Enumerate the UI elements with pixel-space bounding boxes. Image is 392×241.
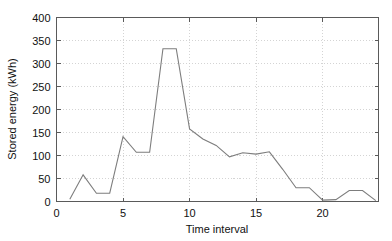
y-axis-title: Stored energy (kWh) bbox=[6, 58, 18, 159]
data-series bbox=[70, 49, 376, 201]
y-tick-label: 250 bbox=[32, 81, 50, 93]
y-tick-label: 150 bbox=[32, 127, 50, 139]
x-axis-title: Time interval bbox=[186, 223, 249, 235]
x-tick-label: 10 bbox=[183, 207, 195, 219]
y-tick-label: 400 bbox=[32, 12, 50, 24]
x-tick-label: 20 bbox=[316, 207, 328, 219]
grid-lines bbox=[57, 18, 379, 202]
series-stored-energy bbox=[70, 49, 376, 201]
stored-energy-line-chart: 050100150200250300350400 05101520 Stored… bbox=[0, 0, 392, 241]
y-tick-label: 100 bbox=[32, 150, 50, 162]
x-axis-tick-labels: 05101520 bbox=[53, 207, 328, 219]
y-tick-label: 50 bbox=[38, 173, 50, 185]
y-axis-tick-labels: 050100150200250300350400 bbox=[32, 12, 50, 208]
x-tick-label: 15 bbox=[250, 207, 262, 219]
x-tick-label: 5 bbox=[120, 207, 126, 219]
y-tick-label: 350 bbox=[32, 35, 50, 47]
y-tick-label: 200 bbox=[32, 104, 50, 116]
y-tick-label: 300 bbox=[32, 58, 50, 70]
x-tick-label: 0 bbox=[53, 207, 59, 219]
y-tick-label: 0 bbox=[44, 196, 50, 208]
chart-figure: 050100150200250300350400 05101520 Stored… bbox=[0, 0, 392, 241]
